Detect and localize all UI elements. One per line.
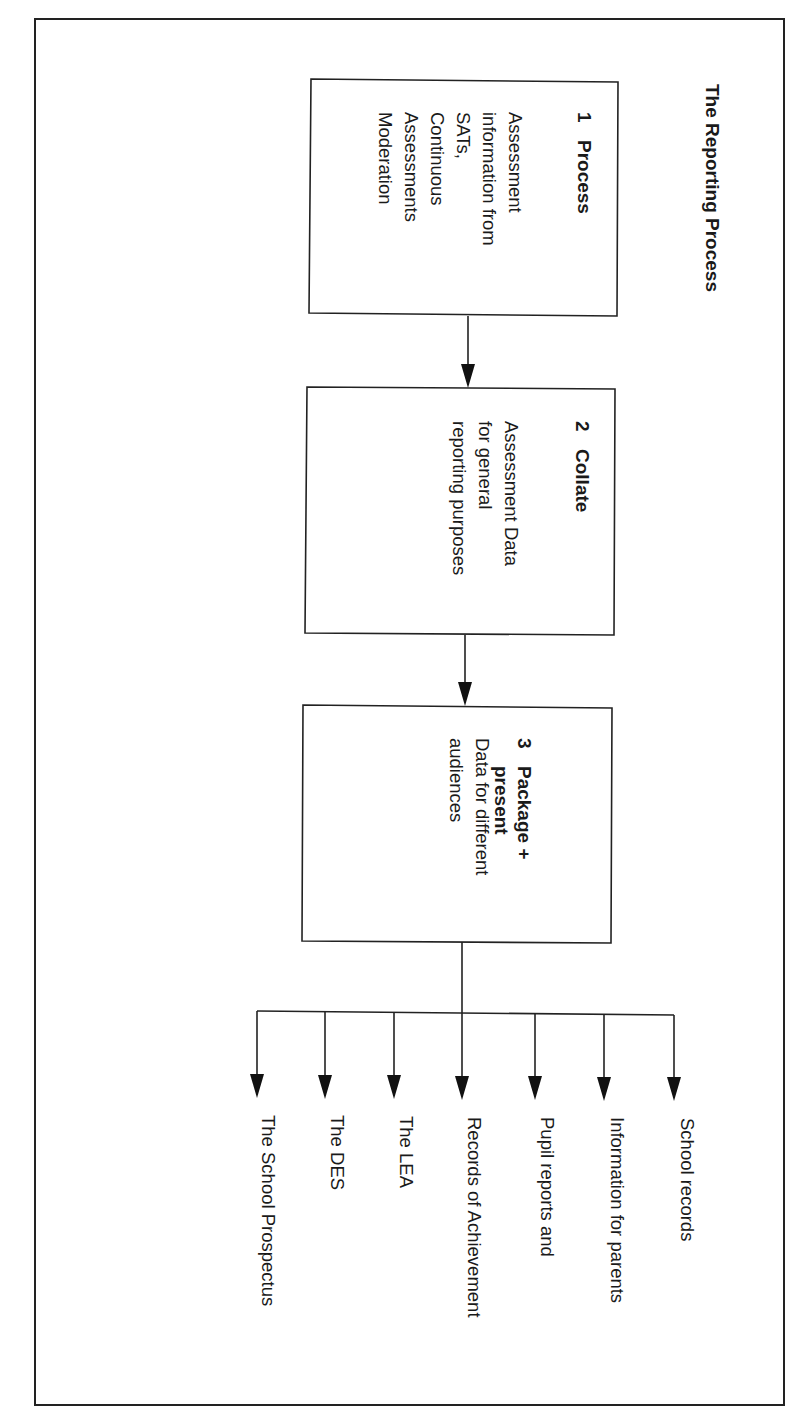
step-3-box: 3 Package + present Data for different a…: [302, 705, 612, 943]
branch-arrow: [528, 1014, 542, 1100]
branch-arrows: [250, 1011, 681, 1101]
branch-arrow: [387, 1013, 401, 1099]
step-1-body-line: SATs,: [453, 112, 474, 159]
step-1-body-line: information from: [479, 112, 500, 246]
step-2-heading: Collate: [572, 449, 593, 512]
step-2-body-line: reporting purposes: [449, 421, 470, 575]
step-2-body-line: for general: [475, 421, 496, 509]
output-label-the-school-prospectus: The School Prospectus: [258, 1115, 279, 1306]
step-1-body-line: Continuous: [427, 112, 448, 206]
output-label-pupil-reports: Pupil reports and: [537, 1117, 558, 1257]
branch-arrow: [667, 1015, 681, 1101]
step-1-body-line: Assessments: [401, 112, 422, 222]
distribution-connector: [257, 942, 674, 1015]
arrow-1-to-2: [461, 316, 475, 388]
step-3-heading: present: [491, 766, 512, 835]
output-label-records-of-achievement: Records of Achievement: [464, 1117, 485, 1318]
output-label-information-for-parents: Information for parents: [607, 1117, 628, 1303]
step-1-number: 1: [574, 112, 595, 123]
branch-arrow: [455, 1013, 469, 1100]
branch-arrow: [250, 1011, 264, 1098]
arrow-2-to-3: [458, 635, 472, 706]
output-label-the-des: The DES: [327, 1115, 348, 1190]
step-3-heading: Package +: [514, 766, 535, 860]
step-3-body-line: audiences: [446, 738, 467, 822]
branch-arrow: [318, 1012, 332, 1099]
step-3-number: 3: [514, 738, 535, 749]
step-1-body-line: Assessment: [505, 112, 526, 213]
output-label-school-records: School records: [677, 1118, 698, 1241]
output-labels: School records Information for parents P…: [258, 1115, 698, 1318]
step-1-box: 1 Process Assessment information from SA…: [309, 79, 618, 316]
reporting-process-diagram: The Reporting Process 1 Process Assessme…: [0, 0, 787, 1424]
step-2-box: 2 Collate Assessment Data for general re…: [305, 387, 615, 635]
step-2-body-line: Assessment Data: [501, 421, 522, 567]
step-1-heading: Process: [574, 140, 595, 214]
output-label-the-lea: The LEA: [396, 1116, 417, 1189]
step-3-body-line: Data for different: [472, 738, 493, 875]
step-2-number: 2: [572, 421, 593, 432]
step-1-body-line: Moderation: [375, 112, 396, 205]
branch-arrow: [597, 1014, 611, 1101]
diagram-title: The Reporting Process: [702, 84, 723, 292]
